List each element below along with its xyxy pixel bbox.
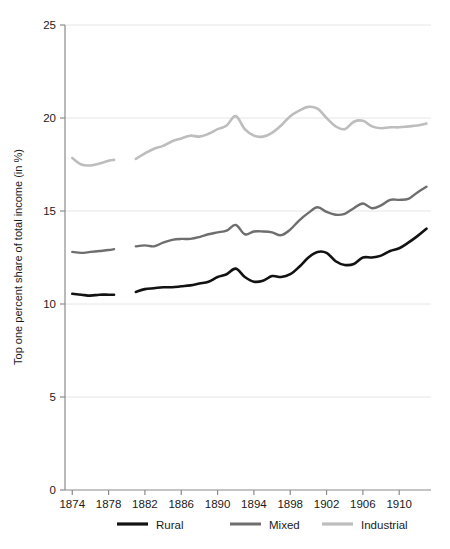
- x-tick-label: 1882: [132, 498, 158, 510]
- y-tick-label: 0: [50, 484, 56, 496]
- x-tick-label: 1874: [59, 498, 85, 510]
- x-tick-label: 1906: [350, 498, 376, 510]
- legend-label: Industrial: [361, 519, 408, 531]
- legend-label: Rural: [156, 519, 183, 531]
- x-tick-label: 1894: [241, 498, 267, 510]
- y-tick-label: 5: [50, 391, 56, 403]
- y-tick-label: 10: [43, 298, 56, 310]
- x-tick-label: 1898: [277, 498, 303, 510]
- x-tick-label: 1910: [386, 498, 412, 510]
- chart-container: 0510152025 18741878188218861890189418981…: [0, 0, 450, 549]
- line-chart: 0510152025 18741878188218861890189418981…: [0, 0, 450, 549]
- x-tick-label: 1890: [205, 498, 231, 510]
- legend-label: Mixed: [269, 519, 300, 531]
- y-tick-label: 20: [43, 112, 56, 124]
- x-tick-label: 1886: [168, 498, 194, 510]
- y-tick-label: 15: [43, 205, 56, 217]
- x-tick-label: 1902: [314, 498, 340, 510]
- x-tick-label: 1878: [96, 498, 122, 510]
- y-tick-label: 25: [43, 19, 56, 31]
- y-axis-label: Top one percent share of total income (i…: [12, 149, 24, 365]
